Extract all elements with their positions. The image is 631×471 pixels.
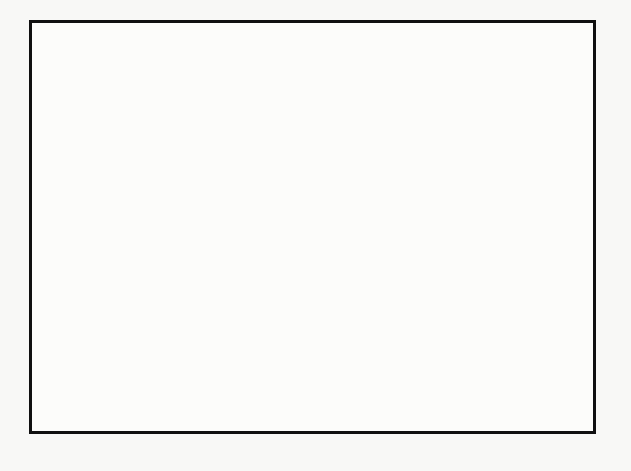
slide-frame	[29, 20, 596, 434]
scanned-slide-page	[0, 0, 631, 471]
